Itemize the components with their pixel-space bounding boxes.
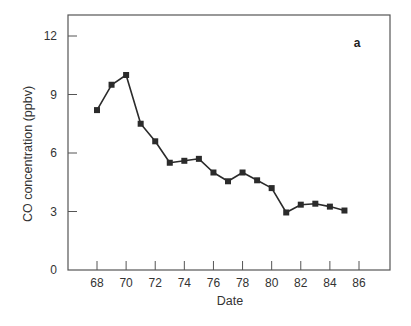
y-axis-ticks: 036912 <box>44 29 77 277</box>
data-point-marker <box>210 170 216 176</box>
x-tick-label: 76 <box>207 276 221 290</box>
x-axis-ticks: 68707274767880828486 <box>90 261 366 290</box>
data-point-marker <box>196 156 202 162</box>
data-point-marker <box>240 170 246 176</box>
panel-label: a <box>354 36 361 50</box>
x-tick-label: 86 <box>352 276 366 290</box>
x-tick-label: 74 <box>178 276 192 290</box>
data-point-marker <box>181 158 187 164</box>
plot-frame <box>68 15 390 270</box>
data-point-marker <box>225 178 231 184</box>
data-point-marker <box>269 185 275 191</box>
data-point-marker <box>152 138 158 144</box>
y-tick-label: 0 <box>50 263 57 277</box>
data-point-marker <box>138 121 144 127</box>
x-tick-label: 68 <box>90 276 104 290</box>
data-point-marker <box>109 82 115 88</box>
data-point-marker <box>94 107 100 113</box>
y-tick-label: 3 <box>50 205 57 219</box>
y-tick-label: 12 <box>44 29 58 43</box>
data-series <box>94 72 347 215</box>
data-point-marker <box>254 177 260 183</box>
y-tick-label: 9 <box>50 88 57 102</box>
plot-border <box>68 15 390 270</box>
data-point-marker <box>283 209 289 215</box>
co-concentration-chart: 036912 68707274767880828486 a Date CO co… <box>0 0 411 326</box>
data-point-marker <box>341 208 347 214</box>
y-axis-title: CO concentration (ppbv) <box>21 86 35 222</box>
series-line <box>97 75 344 213</box>
data-point-marker <box>167 160 173 166</box>
x-tick-label: 72 <box>149 276 163 290</box>
data-point-marker <box>123 72 129 78</box>
data-point-marker <box>298 202 304 208</box>
x-tick-label: 78 <box>236 276 250 290</box>
x-tick-label: 84 <box>323 276 337 290</box>
x-tick-label: 70 <box>119 276 133 290</box>
x-axis-title: Date <box>217 294 243 308</box>
y-tick-label: 6 <box>50 146 57 160</box>
x-tick-label: 82 <box>294 276 308 290</box>
x-tick-label: 80 <box>265 276 279 290</box>
data-point-marker <box>327 204 333 210</box>
data-point-marker <box>312 201 318 207</box>
